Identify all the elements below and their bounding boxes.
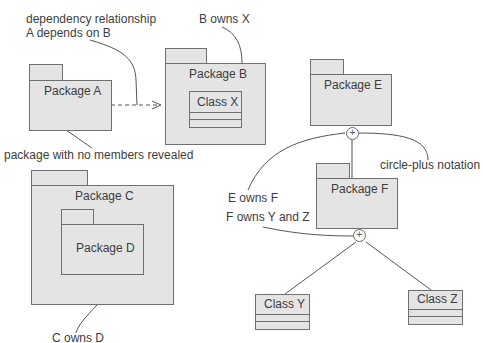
f-y-ownership-line — [285, 242, 356, 294]
circle-plus-annotation: circle-plus notation — [380, 158, 480, 172]
c-owns-d-annotation: C owns D — [52, 331, 104, 343]
package-a-label: Package A — [44, 84, 101, 98]
class-y-attributes — [256, 314, 309, 315]
class-y-operations — [256, 321, 309, 322]
package-d-label: Package D — [76, 241, 135, 255]
circle-plus-icon: + — [353, 229, 366, 242]
package-c-label: Package C — [75, 189, 134, 203]
class-z-attributes — [409, 309, 462, 310]
f-z-ownership-line — [366, 242, 431, 290]
circle-plus-leader — [358, 133, 428, 160]
class-x-label: Class X — [197, 95, 238, 109]
dependency-annotation-line1: dependency relationship — [26, 12, 156, 26]
package-e-label: Package E — [324, 78, 382, 92]
f-owns-yz-annotation: F owns Y and Z — [226, 210, 310, 224]
e-owns-f-annotation: E owns F — [228, 191, 278, 205]
package-b-label: Package B — [189, 67, 247, 81]
b-owns-x-annotation: B owns X — [199, 12, 250, 26]
class-y-label: Class Y — [264, 297, 305, 311]
package-f-label: Package F — [331, 182, 388, 196]
circle-plus-icon: + — [346, 127, 359, 140]
no-members-annotation: package with no members revealed — [4, 148, 193, 162]
class-x-operations — [190, 119, 241, 120]
b-owns-x-leader — [222, 27, 242, 63]
c-owns-d-leader — [76, 305, 97, 333]
dependency-annotation-line2: A depends on B — [26, 26, 111, 40]
class-z-operations — [409, 316, 462, 317]
no-members-leader — [66, 130, 92, 148]
class-x-attributes — [190, 112, 241, 113]
class-z-label: Class Z — [417, 292, 458, 306]
